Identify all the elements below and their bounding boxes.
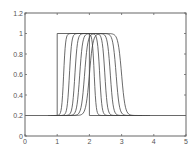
x-tick-label: 1	[55, 138, 59, 145]
curve-pulse-6	[61, 34, 150, 116]
axes-frame	[25, 13, 186, 136]
x-tick-label: 0	[23, 138, 27, 145]
y-tick-label: 0	[19, 133, 23, 140]
x-tick-label: 2	[87, 138, 91, 145]
y-tick-label: 1	[19, 30, 23, 37]
pulse-chart: 012345 00.20.40.60.811.2	[0, 0, 193, 150]
y-tick-label: 0.6	[13, 71, 23, 78]
y-tick-label: 0.4	[13, 92, 23, 99]
x-tick-label: 5	[184, 138, 188, 145]
y-tick-label: 0.8	[13, 51, 23, 58]
curves-group	[25, 34, 186, 116]
x-tick-label: 3	[120, 138, 124, 145]
x-axis: 012345	[23, 13, 188, 145]
y-tick-label: 1.2	[13, 10, 23, 17]
y-tick-label: 0.2	[13, 112, 23, 119]
x-tick-label: 4	[152, 138, 156, 145]
